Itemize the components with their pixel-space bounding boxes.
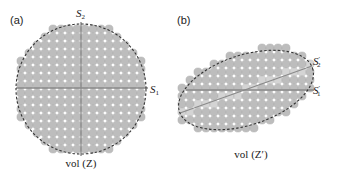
- grain-circle: [266, 84, 274, 92]
- grain-circle: [41, 137, 49, 145]
- grain-circle: [178, 92, 186, 100]
- grain-circle: [210, 108, 218, 116]
- grain-circle: [186, 84, 194, 92]
- grain-circle: [73, 105, 81, 113]
- grain-circle: [113, 105, 121, 113]
- grain-circle: [226, 124, 234, 132]
- grain-circle: [226, 100, 234, 108]
- grain-circle: [202, 124, 210, 132]
- grain-circle: [105, 41, 113, 49]
- grain-circle: [89, 73, 97, 81]
- grain-circle: [250, 60, 258, 68]
- grain-circle: [81, 105, 89, 113]
- grain-circle: [218, 116, 226, 124]
- grain-circle: [234, 116, 242, 124]
- grain-circle: [105, 33, 113, 41]
- panel-b: (b) S′2 S′1 vol (Z′): [169, 14, 324, 161]
- grain-circle: [129, 65, 137, 73]
- grain-circle: [25, 89, 33, 97]
- grain-circle: [81, 65, 89, 73]
- grain-circle: [25, 65, 33, 73]
- grain-circle: [202, 84, 210, 92]
- grain-circle: [41, 57, 49, 65]
- grain-circle: [113, 41, 121, 49]
- grain-circle: [41, 41, 49, 49]
- grain-circle: [234, 68, 242, 76]
- grain-circle: [121, 49, 129, 57]
- grain-circle: [41, 33, 49, 41]
- grain-circle: [202, 92, 210, 100]
- grain-circle: [242, 92, 250, 100]
- grain-circle: [25, 105, 33, 113]
- grain-circle: [57, 137, 65, 145]
- grain-circle: [234, 76, 242, 84]
- grain-circle: [258, 68, 266, 76]
- figure: (a) S2 S1 vol (Z) (b) S′2 S′1 vol (Z′): [0, 0, 337, 182]
- grain-circle: [121, 113, 129, 121]
- grain-circle: [89, 105, 97, 113]
- grain-circle: [33, 97, 41, 105]
- grain-circle: [25, 97, 33, 105]
- panel-label-a: (a): [10, 14, 23, 26]
- grain-circle: [33, 129, 41, 137]
- grain-circle: [242, 100, 250, 108]
- grain-circle: [282, 84, 290, 92]
- grain-circle: [129, 113, 137, 121]
- grain-circle: [73, 33, 81, 41]
- grain-circle: [129, 105, 137, 113]
- grain-circle: [57, 33, 65, 41]
- grain-circle: [49, 65, 57, 73]
- grain-circle: [41, 89, 49, 97]
- grain-circle: [17, 97, 25, 105]
- grain-circle: [97, 33, 105, 41]
- grain-circle: [282, 52, 290, 60]
- grain-circle: [218, 84, 226, 92]
- grain-circle: [121, 89, 129, 97]
- grain-circle: [89, 41, 97, 49]
- grain-circle: [226, 108, 234, 116]
- grain-circle: [73, 41, 81, 49]
- grain-circle: [97, 137, 105, 145]
- grain-circle: [113, 113, 121, 121]
- grain-circle: [178, 84, 186, 92]
- grain-circle: [113, 65, 121, 73]
- grain-circle: [73, 145, 81, 153]
- grain-circle: [105, 113, 113, 121]
- caption-vol-z: vol (Z): [66, 157, 97, 170]
- grain-circle: [97, 113, 105, 121]
- grain-circle: [298, 60, 306, 68]
- grain-circle: [89, 113, 97, 121]
- grain-circle: [121, 73, 129, 81]
- grain-circle: [81, 129, 89, 137]
- grain-circle: [274, 52, 282, 60]
- grain-circle: [113, 121, 121, 129]
- grain-circle: [105, 97, 113, 105]
- grain-circle: [81, 73, 89, 81]
- grain-circle: [57, 73, 65, 81]
- grain-circle: [17, 89, 25, 97]
- grain-circle: [57, 41, 65, 49]
- grain-circle: [49, 41, 57, 49]
- grain-circle: [274, 100, 282, 108]
- grain-circle: [121, 65, 129, 73]
- grain-circle: [97, 65, 105, 73]
- grain-circle: [65, 25, 73, 33]
- grain-circle: [49, 73, 57, 81]
- grain-circle: [89, 57, 97, 65]
- grain-circle: [282, 92, 290, 100]
- grain-circle: [81, 41, 89, 49]
- grain-circle: [274, 60, 282, 68]
- grain-circle: [81, 137, 89, 145]
- grain-circle: [282, 76, 290, 84]
- grain-circle: [266, 68, 274, 76]
- grain-circle: [186, 100, 194, 108]
- grain-circle: [97, 97, 105, 105]
- grain-circle: [242, 52, 250, 60]
- grain-circle: [242, 76, 250, 84]
- grain-circle: [73, 73, 81, 81]
- grain-circle: [121, 57, 129, 65]
- grain-circle: [73, 137, 81, 145]
- grain-circle: [105, 121, 113, 129]
- grain-circle: [258, 108, 266, 116]
- grain-circle: [65, 89, 73, 97]
